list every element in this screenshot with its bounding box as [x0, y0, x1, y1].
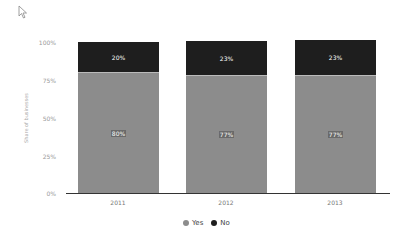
- bar-2011[interactable]: 20% 80%: [78, 42, 159, 193]
- y-tick-25: 25%: [36, 153, 56, 160]
- data-label: 23%: [220, 55, 233, 62]
- data-label: 23%: [329, 54, 342, 61]
- y-tick-75: 75%: [36, 77, 56, 84]
- bar-segment-no[interactable]: 23%: [186, 41, 267, 75]
- legend-label: Yes: [192, 219, 203, 227]
- data-label: 20%: [112, 54, 125, 61]
- legend-item-no[interactable]: No: [211, 219, 230, 227]
- legend-dot-icon: [211, 220, 217, 226]
- data-label: 77%: [328, 131, 343, 138]
- data-label: 77%: [219, 131, 234, 138]
- legend-label: No: [220, 219, 230, 227]
- mouse-cursor-icon: [18, 5, 28, 19]
- bar-segment-no[interactable]: 20%: [78, 42, 159, 72]
- bar-segment-yes[interactable]: 77%: [186, 75, 267, 193]
- bar-segment-yes[interactable]: 77%: [295, 75, 376, 193]
- data-label: 80%: [111, 130, 126, 137]
- legend-item-yes[interactable]: Yes: [183, 219, 203, 227]
- x-tick-2012: 2012: [196, 199, 256, 206]
- chart-legend: Yes No: [183, 219, 230, 227]
- y-tick-50: 50%: [36, 115, 56, 122]
- y-tick-0: 0%: [36, 190, 56, 197]
- bar-2012[interactable]: 23% 77%: [186, 41, 267, 193]
- y-axis-label: Share of businesses: [23, 93, 29, 143]
- x-tick-2013: 2013: [305, 199, 365, 206]
- bar-2013[interactable]: 23% 77%: [295, 40, 376, 193]
- bar-segment-yes[interactable]: 80%: [78, 72, 159, 193]
- y-tick-100: 100%: [36, 39, 56, 46]
- bar-segment-no[interactable]: 23%: [295, 40, 376, 75]
- legend-dot-icon: [183, 220, 189, 226]
- x-tick-2011: 2011: [88, 199, 148, 206]
- x-axis-line: [66, 193, 390, 194]
